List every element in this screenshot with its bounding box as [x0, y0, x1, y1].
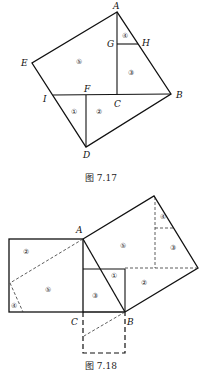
region-label-2: ②	[96, 108, 102, 116]
lower-dashed-diagonal	[84, 312, 125, 336]
region-label-1: ①	[71, 108, 77, 116]
region-label-mid-3: ③	[92, 292, 98, 300]
region-label-right-4: ④	[160, 213, 166, 221]
left-dashed-diagonal	[10, 239, 83, 283]
hypotenuse-square	[83, 196, 198, 312]
region-label-right-2: ②	[141, 279, 147, 287]
point-label-e: E	[20, 58, 28, 68]
point-label-c: C	[114, 99, 121, 109]
point-label-c-718: C	[71, 317, 78, 327]
region-label-left-4: ④	[11, 302, 17, 310]
figure-caption-7-18: 图 7.18	[85, 361, 117, 371]
left-square	[9, 239, 83, 312]
region-label-right-3: ③	[170, 244, 176, 252]
segment-ab	[83, 239, 125, 312]
square-aebd	[32, 12, 171, 147]
region-label-left-2: ②	[23, 248, 29, 256]
region-label-right-5: ⑤	[120, 242, 126, 250]
segment-ib	[53, 94, 171, 95]
point-label-b: B	[175, 90, 183, 100]
region-label-mid-1: ①	[111, 272, 117, 280]
point-label-b-718: B	[126, 317, 134, 327]
point-label-i: I	[42, 94, 47, 104]
region-label-3: ③	[128, 69, 134, 77]
point-label-h: H	[141, 38, 150, 48]
point-label-d: D	[82, 150, 90, 160]
region-label-5: ⑤	[76, 58, 82, 66]
diagram-canvas: A G H E I F C B D ④ ⑤ ③ ① ② 图 7.17	[0, 0, 206, 386]
figure-caption-7-17: 图 7.17	[85, 173, 117, 183]
figure-7-17: A G H E I F C B D ④ ⑤ ③ ① ② 图 7.17	[20, 1, 183, 183]
figure-7-18: A C B ② ⑤ ④ ③ ① ⑤ ④ ③ ② 图 7.18	[9, 196, 198, 371]
point-label-f: F	[83, 84, 91, 94]
region-label-left-5: ⑤	[45, 286, 51, 294]
point-label-g: G	[107, 39, 114, 49]
point-label-a: A	[112, 1, 120, 11]
region-label-4: ④	[122, 32, 128, 40]
point-label-a-718: A	[75, 225, 83, 235]
